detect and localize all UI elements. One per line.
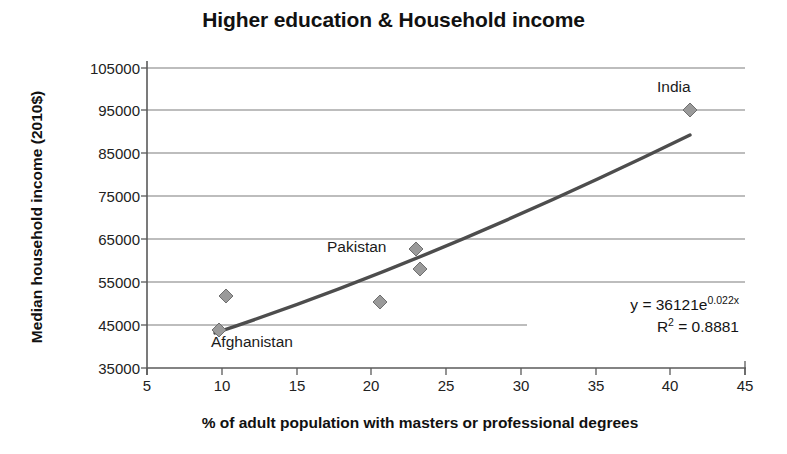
x-axis-title: % of adult population with masters or pr…	[80, 414, 760, 432]
label-india: India	[657, 78, 691, 96]
trendline-equation: y = 36121e0.022x	[527, 294, 739, 316]
equation-base: y = 36121e	[630, 296, 707, 313]
r2-value: = 0.8881	[674, 318, 739, 335]
label-pakistan: Pakistan	[327, 238, 386, 256]
x-tick-label: 25	[423, 377, 469, 394]
r2-base: R	[657, 318, 668, 335]
x-tick-label: 40	[647, 377, 693, 394]
x-tick-label: 20	[348, 377, 394, 394]
data-point-marker	[373, 295, 387, 309]
trendline-equation-box: y = 36121e0.022x R2 = 0.8881	[527, 292, 745, 342]
data-point-marker	[409, 242, 423, 256]
y-axis-ticks	[141, 68, 147, 368]
x-tick-label: 35	[573, 377, 619, 394]
x-tick-label: 45	[722, 377, 768, 394]
x-tick-label: 15	[274, 377, 320, 394]
x-tick-label: 5	[124, 377, 170, 394]
data-point-marker	[219, 289, 233, 303]
x-axis-ticks	[147, 368, 745, 375]
label-afghanistan: Afghanistan	[211, 333, 293, 351]
trendline-r2: R2 = 0.8881	[527, 316, 739, 338]
chart-container: Higher education & Household income Medi…	[0, 0, 787, 454]
equation-exponent: 0.022x	[707, 294, 739, 306]
data-point-marker	[683, 103, 697, 117]
x-tick-label: 30	[498, 377, 544, 394]
gridlines	[147, 68, 745, 325]
data-point-marker	[413, 262, 427, 276]
x-tick-label: 10	[199, 377, 245, 394]
